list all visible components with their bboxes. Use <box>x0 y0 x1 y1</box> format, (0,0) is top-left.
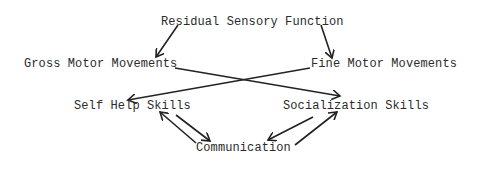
diagram-canvas: Residual Sensory Function Gross Motor Mo… <box>0 0 478 171</box>
node-self-help-skills: Self Help Skills <box>74 99 191 113</box>
node-communication: Communication <box>196 141 291 155</box>
node-residual-sensory-function: Residual Sensory Function <box>161 15 344 29</box>
arrow-selfhelp-to-communication <box>176 115 210 141</box>
arrow-gross-to-socialization <box>175 68 340 96</box>
arrow-communication-to-socialization <box>295 112 337 145</box>
arrow-fine-to-selfhelp <box>128 68 310 100</box>
node-fine-motor-movements: Fine Motor Movements <box>311 57 457 71</box>
node-socialization-skills: Socialization Skills <box>283 99 429 113</box>
arrow-residual-to-fine <box>321 25 332 58</box>
arrow-residual-to-gross <box>156 25 178 57</box>
node-gross-motor-movements: Gross Motor Movements <box>24 57 177 71</box>
